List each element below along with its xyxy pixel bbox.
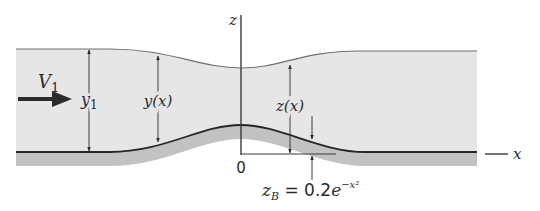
origin-label: 0 <box>236 159 246 177</box>
x-axis-label: x <box>513 145 522 163</box>
surface-elevation-label: z(x) <box>275 97 304 115</box>
z-axis-label: z <box>228 11 237 29</box>
local-depth-label: y(x) <box>143 92 173 110</box>
channel-flow-diagram: V1 y1 y(x) z(x) z x 0 zB = 0.2e−x² <box>0 0 540 211</box>
bed-equation: zB = 0.2e−x² <box>261 179 359 203</box>
